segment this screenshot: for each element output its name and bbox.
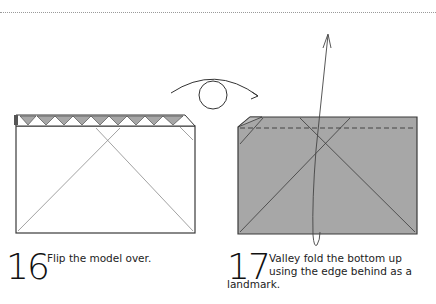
step17-model (238, 117, 417, 234)
step-instruction: Valley fold the bottom up using the edge… (269, 252, 429, 278)
instruction-line-1: Valley fold the bottom up (269, 252, 429, 265)
instruction-line-2: using the edge behind as a (269, 265, 429, 278)
flip-over-arrow-icon (171, 79, 258, 109)
instruction-line-3: landmark. (227, 278, 280, 290)
step-instruction: Flip the model over. (47, 252, 217, 265)
top-pleat-strip (14, 115, 195, 126)
step16-model (14, 115, 195, 233)
step-number: 16 (6, 249, 48, 285)
